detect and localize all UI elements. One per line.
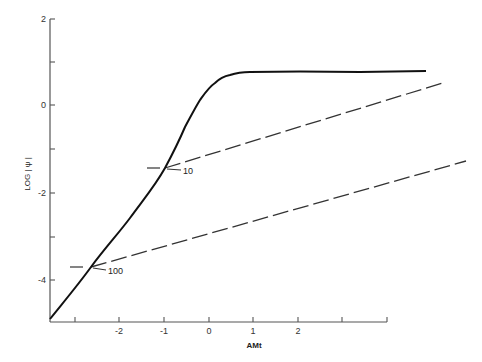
y-ticks — [50, 19, 55, 280]
y-axis-title: LOG | ψ | — [23, 157, 32, 190]
y-tick-label: -4 — [38, 275, 46, 285]
annotation-100: 100 — [108, 266, 123, 276]
leader-10 — [167, 169, 181, 170]
y-tick-label: 2 — [41, 14, 46, 24]
chart: 2 0 -2 -4 -2 -1 0 1 2 AMt LOG | ψ | 10 1… — [0, 0, 482, 362]
x-ticks — [75, 317, 387, 322]
dashed-line-100 — [91, 161, 466, 267]
x-tick-label: 0 — [206, 326, 211, 336]
leader-100 — [93, 268, 106, 270]
x-tick-label: 2 — [295, 326, 300, 336]
x-tick-label: -2 — [115, 326, 123, 336]
x-axis-title: AMt — [246, 341, 261, 350]
x-tick-label: -1 — [160, 326, 168, 336]
solid-curve — [50, 71, 426, 319]
dashed-line-10 — [165, 82, 446, 168]
annotation-10: 10 — [183, 166, 193, 176]
y-tick-label: 0 — [41, 100, 46, 110]
x-tick-label: 1 — [250, 326, 255, 336]
plot-area: 2 0 -2 -4 -2 -1 0 1 2 AMt LOG | ψ | 10 1… — [0, 0, 482, 362]
y-tick-label: -2 — [38, 188, 46, 198]
